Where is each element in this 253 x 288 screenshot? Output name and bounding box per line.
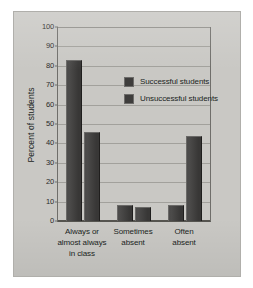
x-category-label-line: absent <box>148 237 220 248</box>
y-tick-label: 100 <box>42 23 54 31</box>
bar <box>66 60 82 221</box>
y-axis-title-text: Percent of students <box>26 87 36 162</box>
y-tick-label: 80 <box>46 62 54 70</box>
legend-label: Unsuccessful students <box>140 94 218 103</box>
y-tick-mark <box>55 27 58 28</box>
gridline <box>58 46 210 47</box>
y-tick-label: 50 <box>46 120 54 128</box>
y-tick-mark <box>55 66 58 67</box>
bar <box>84 132 100 221</box>
bar <box>186 136 202 221</box>
x-category-label-line: Often <box>148 226 220 237</box>
gridline <box>58 27 210 28</box>
x-axis-category-labels: Always oralmost alwaysin classSometimesa… <box>57 226 211 274</box>
y-tick-mark <box>55 105 58 106</box>
y-tick-label: 20 <box>46 178 54 186</box>
y-tick-mark <box>55 124 58 125</box>
y-tick-label: 90 <box>46 42 54 50</box>
legend-swatch-icon <box>124 94 134 104</box>
chart-figure: Percent of students 01020304050607080901… <box>13 11 241 277</box>
y-tick-label: 70 <box>46 81 54 89</box>
y-tick-mark <box>55 182 58 183</box>
y-tick-label: 30 <box>46 159 54 167</box>
bar <box>117 205 133 221</box>
legend-item-unsuccessful: Unsuccessful students <box>124 90 236 107</box>
y-tick-mark <box>55 221 58 222</box>
legend-label: Successful students <box>140 77 209 86</box>
y-tick-mark <box>55 85 58 86</box>
y-tick-label: 60 <box>46 101 54 109</box>
chart-legend: Successful students Unsuccessful student… <box>124 73 236 107</box>
y-tick-label: 40 <box>46 139 54 147</box>
y-tick-label: 10 <box>46 198 54 206</box>
legend-item-successful: Successful students <box>124 73 236 90</box>
y-tick-mark <box>55 202 58 203</box>
bar <box>168 205 184 221</box>
legend-swatch-icon <box>124 77 134 87</box>
y-tick-mark <box>55 143 58 144</box>
x-category-label: Oftenabsent <box>148 226 220 248</box>
y-axis-title: Percent of students <box>24 27 38 222</box>
y-tick-label: 0 <box>50 217 54 225</box>
y-tick-mark <box>55 46 58 47</box>
x-category-label-line: in class <box>46 248 118 259</box>
y-tick-mark <box>55 163 58 164</box>
bar <box>135 207 151 221</box>
plot-area: 0102030405060708090100 <box>57 27 211 222</box>
